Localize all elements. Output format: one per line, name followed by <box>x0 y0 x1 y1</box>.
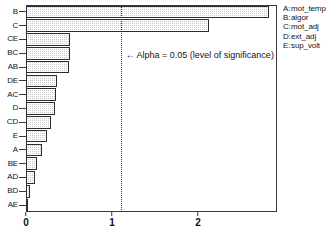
y-tick-bd: BD <box>0 184 26 198</box>
y-tick-label: AB <box>8 63 19 71</box>
legend-item-a: A:mot_temp <box>283 4 334 13</box>
legend-label: ext_adj <box>291 32 316 41</box>
bar-cd <box>26 116 51 129</box>
x-tick-0: 0 <box>23 212 29 229</box>
legend-label: mot_temp <box>291 4 326 13</box>
y-tick-cd: CD <box>0 115 26 129</box>
y-tick-mark <box>19 136 26 137</box>
bar-ce <box>26 33 70 46</box>
bar-row <box>26 198 277 212</box>
y-tick-mark <box>19 94 26 95</box>
x-tick-mark <box>111 212 112 216</box>
bar-ae <box>26 199 28 212</box>
bar-row <box>26 143 277 157</box>
x-tick-mark <box>197 212 198 216</box>
legend-item-d: D:ext_adj <box>283 32 334 41</box>
y-tick-label: AE <box>8 201 19 209</box>
y-tick-label: CE <box>7 35 19 43</box>
bar-row <box>26 129 277 143</box>
y-tick-a: A <box>0 143 26 157</box>
bar-ad <box>26 171 35 184</box>
legend-key: D: <box>283 32 291 41</box>
y-tick-mark <box>19 191 26 192</box>
y-tick-mark <box>19 67 26 68</box>
y-axis: BCCEBCABDEACDCDEABEADBDAE <box>0 5 26 212</box>
y-tick-ac: AC <box>0 88 26 102</box>
bar-row <box>26 115 277 129</box>
y-tick-ce: CE <box>0 33 26 47</box>
bar-row <box>26 74 277 88</box>
x-tick-label: 0 <box>23 217 29 229</box>
y-tick-label: CD <box>7 118 19 126</box>
legend-label: sup_volt <box>291 41 320 50</box>
y-tick-bc: BC <box>0 46 26 60</box>
x-tick-1: 1 <box>109 212 115 229</box>
alpha-annotation-label: Alpha = 0.05 (level of significance) <box>137 50 274 60</box>
bar-row <box>26 60 277 74</box>
x-axis: 012 <box>26 212 277 238</box>
bar-bd <box>26 185 30 198</box>
legend-key: C: <box>283 22 291 31</box>
y-tick-label: C <box>12 22 19 30</box>
y-tick-be: BE <box>0 157 26 171</box>
legend-item-e: E:sup_volt <box>283 41 334 50</box>
y-tick-mark <box>19 53 26 54</box>
x-tick-mark <box>26 212 27 216</box>
alpha-reference-line <box>121 5 122 212</box>
y-tick-ad: AD <box>0 171 26 185</box>
y-tick-mark <box>19 80 26 81</box>
y-tick-b: B <box>0 5 26 19</box>
y-tick-d: D <box>0 102 26 116</box>
left-arrow-icon: ← <box>126 49 136 60</box>
y-tick-label: DE <box>7 77 19 85</box>
legend-label: mot_adj <box>291 22 319 31</box>
y-tick-mark <box>19 149 26 150</box>
x-tick-label: 2 <box>195 217 201 229</box>
y-tick-e: E <box>0 129 26 143</box>
y-tick-mark <box>19 177 26 178</box>
legend-item-c: C:mot_adj <box>283 22 334 31</box>
y-tick-c: C <box>0 19 26 33</box>
bar-row <box>26 184 277 198</box>
bar-row <box>26 157 277 171</box>
x-tick-label: 1 <box>109 217 115 229</box>
y-tick-label: BE <box>8 160 19 168</box>
pareto-chart: BCCEBCABDEACDCDEABEADBDAE ←Alpha = 0.05 … <box>0 0 334 240</box>
y-tick-ae: AE <box>0 198 26 212</box>
alpha-annotation: ←Alpha = 0.05 (level of significance) <box>126 50 274 60</box>
bar-row <box>26 33 277 47</box>
y-tick-mark <box>19 11 26 12</box>
legend-key: A: <box>283 4 291 13</box>
legend: A:mot_tempB:algorC:mot_adjD:ext_adjE:sup… <box>283 4 334 50</box>
y-tick-ab: AB <box>0 60 26 74</box>
legend-key: E: <box>283 41 291 50</box>
bar-de <box>26 75 57 88</box>
bars-layer <box>26 5 277 212</box>
bar-b <box>26 6 269 19</box>
y-tick-mark <box>19 163 26 164</box>
bar-bc <box>26 47 70 60</box>
y-tick-mark <box>19 39 26 40</box>
y-tick-mark <box>19 122 26 123</box>
bar-row <box>26 19 277 33</box>
bar-row <box>26 5 277 19</box>
bar-row <box>26 171 277 185</box>
legend-key: B: <box>283 13 291 22</box>
y-tick-de: DE <box>0 74 26 88</box>
y-tick-label: AD <box>7 173 19 181</box>
bar-a <box>26 144 42 157</box>
bar-be <box>26 157 37 170</box>
bar-d <box>26 102 55 115</box>
y-tick-label: D <box>12 104 19 112</box>
legend-label: algor <box>291 13 308 22</box>
bar-row <box>26 102 277 116</box>
y-tick-mark <box>19 108 26 109</box>
y-tick-label: BC <box>7 49 19 57</box>
bar-c <box>26 19 209 32</box>
y-tick-label: BD <box>7 187 19 195</box>
bar-ab <box>26 61 69 74</box>
bar-e <box>26 130 47 143</box>
x-tick-2: 2 <box>195 212 201 229</box>
legend-item-b: B:algor <box>283 13 334 22</box>
y-tick-label: AC <box>7 91 19 99</box>
